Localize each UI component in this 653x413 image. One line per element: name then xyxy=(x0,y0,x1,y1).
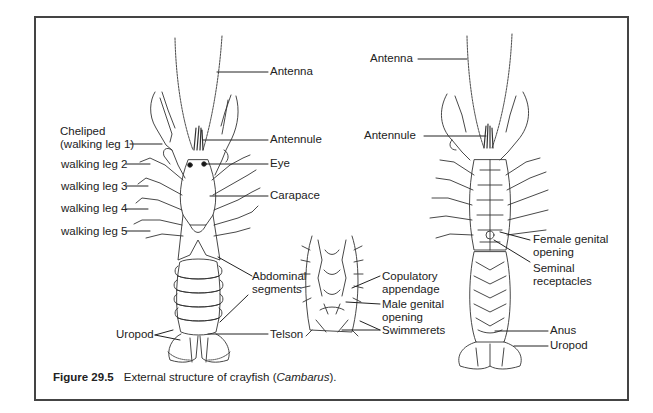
label-antennule-ventral: Antennule xyxy=(364,129,416,142)
label-abdominal-segments: Abdominal xyxy=(252,270,306,283)
leader-lines xyxy=(126,59,548,346)
label-copulatory-appendage: Copulatory xyxy=(382,270,438,283)
label-seminal-receptacles-sub: receptacles xyxy=(533,275,592,288)
label-walking-leg-5: walking leg 5 xyxy=(61,225,127,238)
caption-genus: Cambarus xyxy=(276,371,329,383)
label-female-genital-opening-sub: opening xyxy=(533,246,574,259)
male-ventral-detail-drawing xyxy=(301,236,363,336)
label-cheliped-sub: (walking leg 1) xyxy=(60,138,134,151)
figure-number: Figure 29.5 xyxy=(53,371,114,383)
dorsal-crayfish-drawing xyxy=(134,36,260,362)
label-male-genital-opening-sub: opening xyxy=(382,311,423,324)
label-antenna-dorsal: Antenna xyxy=(270,65,313,78)
label-abdominal-segments-sub: segments xyxy=(252,283,302,296)
caption-suffix: ). xyxy=(330,371,337,383)
label-telson: Telson xyxy=(270,328,303,341)
label-copulatory-appendage-sub: appendage xyxy=(382,283,440,296)
label-male-genital-opening: Male genital xyxy=(382,298,444,311)
label-seminal-receptacles: Seminal xyxy=(533,262,575,275)
caption-text: External structure of crayfish ( xyxy=(124,371,277,383)
label-uropod-ventral: Uropod xyxy=(550,339,588,352)
label-uropod-dorsal: Uropod xyxy=(116,328,154,341)
label-female-genital-opening: Female genital xyxy=(533,233,608,246)
label-antenna-ventral: Antenna xyxy=(370,52,413,65)
label-walking-leg-2: walking leg 2 xyxy=(61,158,127,171)
ventral-crayfish-drawing xyxy=(430,34,548,369)
label-walking-leg-3: walking leg 3 xyxy=(61,180,127,193)
label-walking-leg-4: walking leg 4 xyxy=(61,202,127,215)
label-swimmerets: Swimmerets xyxy=(382,324,445,337)
figure-caption: Figure 29.5External structure of crayfis… xyxy=(53,371,337,383)
label-anus: Anus xyxy=(550,324,576,337)
label-antennule-dorsal: Antennule xyxy=(270,133,322,146)
label-cheliped: Cheliped xyxy=(60,125,105,138)
label-carapace: Carapace xyxy=(270,189,320,202)
label-eye: Eye xyxy=(270,157,290,170)
